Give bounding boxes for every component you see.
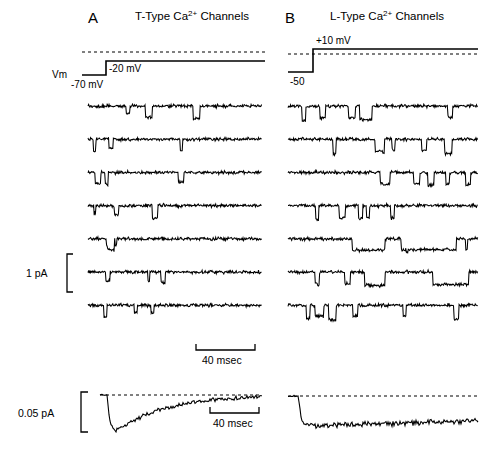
panel-a-title-suffix: Channels xyxy=(197,10,249,22)
current-scale-bracket xyxy=(67,254,73,292)
panel-b-step-label: +10 mV xyxy=(316,35,351,46)
time-scale-bar-upper xyxy=(196,344,255,350)
figure-root: A T-Type Ca2+ Channels Vm -70 mV -20 mV … xyxy=(0,0,499,473)
panel-b-letter: B xyxy=(285,9,295,26)
panel-b-command-step xyxy=(288,49,478,72)
sweep-t-type-row-4 xyxy=(88,204,262,220)
sweep-l-type-row-6 xyxy=(288,270,478,287)
sweep-l-type-row-2 xyxy=(288,137,478,155)
panel-b-title-suffix: Channels xyxy=(392,10,444,22)
sweep-t-type-row-5 xyxy=(88,237,262,252)
sweep-l-type-row-4 xyxy=(288,204,478,221)
time-scale-label-lower: 40 msec xyxy=(213,417,253,429)
sweep-t-type-row-1 xyxy=(88,104,262,120)
panel-a-title: T-Type Ca2+ Channels xyxy=(135,9,249,22)
current-scale-label: 1 pA xyxy=(26,267,48,279)
sweep-t-type-row-7 xyxy=(88,303,262,318)
panel-b-title-prefix: L-Type Ca xyxy=(330,10,384,22)
panel-a-step-label: -20 mV xyxy=(109,63,142,74)
panel-a-title-prefix: T-Type Ca xyxy=(135,10,189,22)
average-scale-label: 0.05 pA xyxy=(18,407,54,419)
sweep-l-type-row-7 xyxy=(288,303,478,321)
sweep-t-type-row-6 xyxy=(88,270,262,284)
time-scale-label-upper: 40 msec xyxy=(202,354,242,366)
ensemble-average-l-type xyxy=(288,395,478,428)
sweep-t-type-row-2 xyxy=(88,137,262,152)
panel-a-title-sup: 2+ xyxy=(188,9,197,18)
panel-a-letter: A xyxy=(88,9,98,26)
sweep-l-type-row-5 xyxy=(288,237,478,253)
panel-b-title-sup: 2+ xyxy=(383,9,392,18)
panel-b-holding-label: -50 xyxy=(290,76,305,87)
panel-a-holding-label: -70 mV xyxy=(71,79,104,90)
sweep-t-type-row-3 xyxy=(88,171,262,186)
figure-svg: A T-Type Ca2+ Channels Vm -70 mV -20 mV … xyxy=(0,0,499,473)
panel-b-title: L-Type Ca2+ Channels xyxy=(330,9,444,22)
sweep-l-type-row-3 xyxy=(288,171,478,187)
vm-label: Vm xyxy=(52,69,67,80)
average-scale-bracket xyxy=(81,392,88,432)
single-channel-sweeps xyxy=(88,104,478,321)
sweep-l-type-row-1 xyxy=(288,104,478,122)
time-scale-bar-lower xyxy=(210,407,259,413)
